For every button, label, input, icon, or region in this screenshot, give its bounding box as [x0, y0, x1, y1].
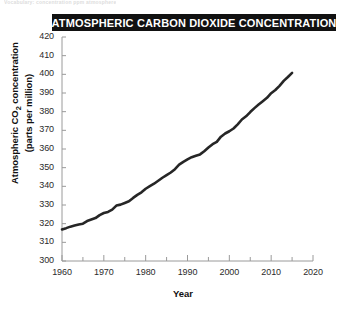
chart-figure: Vocabulary: concentration ppm atmosphere…: [0, 0, 338, 310]
y-axis-title-subscript: 2: [14, 106, 23, 110]
x-tick-label: 1990: [178, 267, 198, 277]
x-tick-label: 1970: [94, 267, 114, 277]
x-tick-label: 2020: [303, 267, 323, 277]
y-axis-title-line2: (parts per million): [23, 23, 35, 203]
x-tick-label: 1960: [52, 267, 72, 277]
x-axis-title: Year: [52, 288, 314, 299]
x-tick-label: 1980: [136, 267, 156, 277]
plot-area: 300310320330340350360370380390400410420 …: [0, 0, 338, 310]
x-tick-label: 2000: [220, 267, 240, 277]
y-axis-title: Atmospheric CO2 concentration (parts per…: [9, 23, 35, 203]
y-axis-title-line1: Atmospheric CO2 concentration: [9, 42, 20, 184]
x-tick-label: 2010: [261, 267, 281, 277]
x-axis-tick-labels: 1960197019801990200020102020: [0, 0, 338, 310]
